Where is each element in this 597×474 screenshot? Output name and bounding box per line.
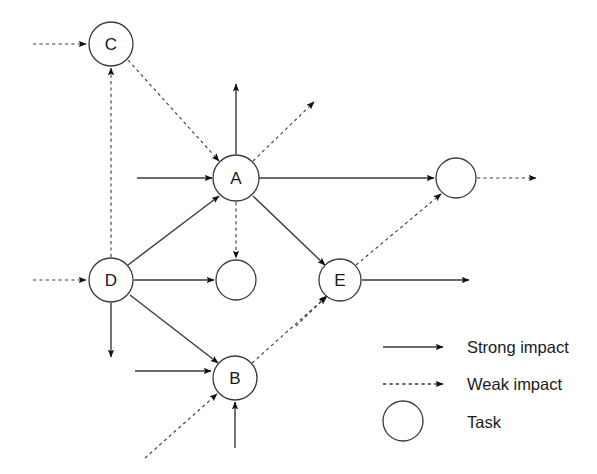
legend-label-task: Task — [467, 413, 502, 431]
edge-D-to-B-strong — [130, 295, 218, 363]
edge-external-to-E-weak — [296, 297, 326, 326]
task-node-B[interactable]: B — [213, 356, 257, 400]
node-label: D — [105, 271, 117, 290]
edge-E-to-T2-weak — [356, 194, 441, 265]
node-label: A — [230, 169, 242, 188]
legend-label-weak: Weak impact — [467, 375, 562, 393]
legend-task-circle-icon — [383, 401, 423, 441]
edge-D-to-A-strong — [128, 196, 219, 265]
legend-label-strong: Strong impact — [467, 338, 569, 356]
task-node-unlabeled-T2[interactable] — [436, 158, 476, 198]
edge-B-to-E-weak — [252, 296, 327, 363]
node-circle-icon — [216, 260, 256, 300]
task-node-C[interactable]: C — [89, 22, 133, 66]
task-node-E[interactable]: E — [319, 259, 361, 301]
node-label: C — [105, 35, 117, 54]
legend: Strong impact Weak impact Task — [383, 338, 569, 441]
diagram-canvas: CADEB Strong impact Weak impact Task — [0, 0, 597, 474]
node-circle-icon — [436, 158, 476, 198]
task-node-A[interactable]: A — [213, 155, 259, 201]
edge-A-to-upright-weak — [253, 102, 314, 161]
task-node-D[interactable]: D — [89, 258, 133, 302]
node-label: B — [229, 369, 240, 388]
edge-A-to-E-strong — [253, 196, 325, 265]
node-layer: CADEB — [89, 22, 476, 400]
edge-C-to-A-weak — [128, 60, 219, 161]
task-node-unlabeled-T1[interactable] — [216, 260, 256, 300]
edge-layer — [33, 44, 536, 458]
edge-external-to-B-weak — [145, 394, 217, 458]
node-label: E — [334, 271, 345, 290]
